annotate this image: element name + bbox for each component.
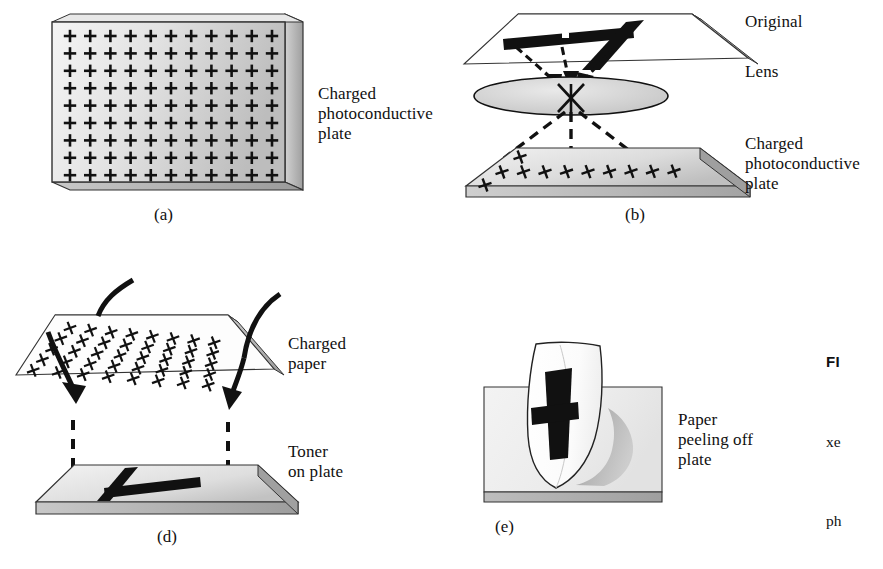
panel-e-paper-line-2: peeling off <box>678 430 753 450</box>
panel-b-lens-label: Lens <box>745 62 778 82</box>
charge-grid <box>64 30 278 182</box>
panel-b: Original Lens Chargedphotoconductiveplat… <box>440 0 883 250</box>
plate-front-edge <box>466 186 750 197</box>
panel-b-illustration <box>440 0 883 250</box>
plate-bottom-face <box>52 182 303 190</box>
panel-d-illustration <box>0 270 420 569</box>
figure-caption-line-1: FI <box>826 349 883 376</box>
panel-d-toner-label: Toneron plate <box>288 442 343 482</box>
panel-d-charged-paper-line-2: paper <box>288 354 346 374</box>
panel-e-paper-line-1: Paper <box>678 410 753 430</box>
figure-caption-line-3: ph <box>826 508 883 535</box>
panel-e-paper-line-3: plate <box>678 450 753 470</box>
panel-b-marker: (b) <box>625 205 645 225</box>
figure-canvas: Chargedphotoconductiveplate (a) <box>0 0 883 569</box>
panel-d-charged-paper-label: Chargedpaper <box>288 334 346 374</box>
figure-caption: FI xe ph ar on at ch to pl <box>826 296 883 569</box>
panel-a-marker: (a) <box>154 205 173 225</box>
panel-e-paper-label: Paperpeeling offplate <box>678 410 753 470</box>
base-plate-front-edge <box>484 492 662 502</box>
drop-arrow-heads <box>62 382 242 410</box>
panel-d-toner-line-2: on plate <box>288 462 343 482</box>
panel-e: Paperpeeling offplate (e) <box>390 330 790 569</box>
panel-e-marker: (e) <box>495 517 514 537</box>
panel-d-charged-paper-line-1: Charged <box>288 334 346 354</box>
plate-top-edge <box>52 14 303 22</box>
panel-a: Chargedphotoconductiveplate (a) <box>0 0 460 250</box>
panel-a-plate-label-line-2: photoconductive <box>318 104 433 124</box>
panel-d: Chargedpaper Toneron plate (d) <box>0 270 420 569</box>
toner-plate-front-edge <box>36 502 298 514</box>
panel-b-plate-label: Chargedphotoconductiveplate <box>745 134 860 194</box>
panel-a-plate-label-line-3: plate <box>318 124 433 144</box>
panel-d-marker: (d) <box>157 527 177 547</box>
panel-a-plate-label-line-1: Charged <box>318 84 433 104</box>
panel-a-plate-label: Chargedphotoconductiveplate <box>318 84 433 144</box>
panel-b-original-label: Original <box>745 12 802 32</box>
plate-side-face <box>285 14 303 190</box>
figure-caption-line-2: xe <box>826 429 883 456</box>
panel-b-plate-label-line-3: plate <box>745 174 860 194</box>
panel-d-toner-line-1: Toner <box>288 442 343 462</box>
panel-b-plate-label-line-1: Charged <box>745 134 860 154</box>
panel-b-plate-label-line-2: photoconductive <box>745 154 860 174</box>
